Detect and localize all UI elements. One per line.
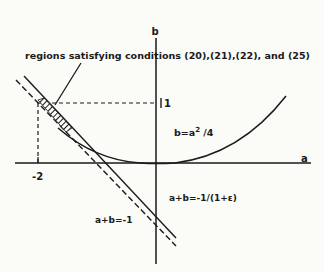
b-axis-label: b	[151, 26, 158, 37]
region-label: regions satisfying conditions (20),(21),…	[25, 51, 310, 61]
parabola-curve	[58, 96, 286, 164]
parabola-label: b=a2 /4	[174, 126, 214, 138]
tick-label-1: 1	[164, 98, 171, 109]
parabola-label-tail: /4	[200, 127, 214, 138]
region-pointer	[55, 63, 81, 105]
dashed-line-label: a+b=-1	[95, 215, 133, 225]
a-axis-label: a	[301, 153, 308, 164]
line-a-plus-b-minus-1-over-1-plus-eps	[24, 76, 176, 238]
parabola-label-base: b=a	[174, 127, 195, 138]
diagram-canvas: b a -2 1 regions satisfying conditions (…	[0, 0, 324, 272]
solid-line-label: a+b=-1/(1+ε)	[169, 193, 237, 203]
tick-label-minus-2: -2	[32, 171, 43, 182]
